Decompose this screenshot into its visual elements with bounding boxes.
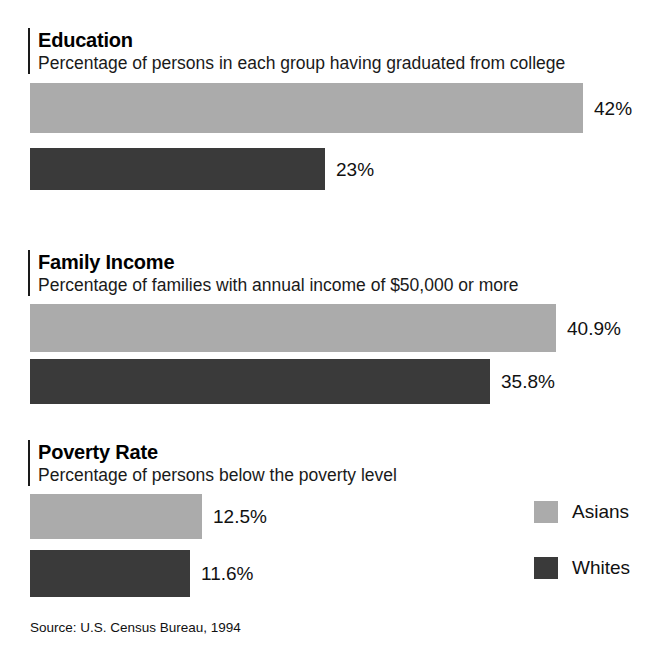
bar-row-asians: 40.9% [30,304,662,352]
bar-row-asians: 42% [30,83,662,133]
bar-poverty-rate-asians-value: 12.5% [213,507,267,526]
legend-label-asians: Asians [572,501,629,523]
panel-poverty-rate-subtitle: Percentage of persons below the poverty … [38,464,598,486]
legend-swatch-asians-icon [534,501,558,523]
source-note: Source: U.S. Census Bureau, 1994 [30,620,241,635]
legend-item-whites[interactable]: Whites [534,553,630,583]
panel-family-income-bars: 40.9% 35.8% [30,304,662,404]
chart-legend: Asians Whites [534,497,630,583]
bar-education-asians [30,83,583,133]
bar-family-income-whites-value: 35.8% [501,372,555,391]
panel-family-income-title: Family Income [38,250,662,274]
bar-education-whites-value: 23% [336,160,374,179]
panel-poverty-rate-title: Poverty Rate [38,440,662,464]
bar-family-income-asians [30,304,556,352]
infographic-chart: Education Percentage of persons in each … [0,0,662,649]
panel-education-title: Education [38,28,662,52]
bar-poverty-rate-whites-value: 11.6% [201,564,253,583]
bar-row-whites: 23% [30,148,662,190]
bar-row-whites: 35.8% [30,359,662,404]
legend-item-asians[interactable]: Asians [534,497,630,527]
bar-education-asians-value: 42% [594,99,632,118]
bar-family-income-asians-value: 40.9% [567,319,621,338]
bar-poverty-rate-asians [30,494,202,539]
bar-poverty-rate-whites [30,550,190,597]
panel-education-bars: 42% 23% [30,83,662,190]
panel-education-header: Education Percentage of persons in each … [28,28,662,74]
panel-poverty-rate-header: Poverty Rate Percentage of persons below… [28,440,662,486]
panel-education-subtitle: Percentage of persons in each group havi… [38,52,598,74]
panel-family-income: Family Income Percentage of families wit… [0,250,662,404]
bar-family-income-whites [30,359,490,404]
panel-family-income-subtitle: Percentage of families with annual incom… [38,274,598,296]
panel-education: Education Percentage of persons in each … [0,28,662,190]
panel-family-income-header: Family Income Percentage of families wit… [28,250,662,296]
legend-label-whites: Whites [572,557,630,579]
bar-education-whites [30,148,325,190]
legend-swatch-whites-icon [534,557,558,579]
